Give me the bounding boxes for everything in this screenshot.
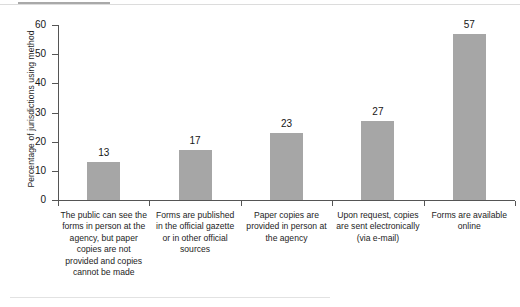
y-axis-tick [52, 54, 58, 55]
x-axis-tick [332, 201, 333, 206]
bar-value-label: 13 [84, 147, 124, 158]
y-axis-tick [52, 142, 58, 143]
y-axis-tick [52, 25, 58, 26]
bar-value-label: 23 [267, 118, 307, 129]
x-axis-category-label: Forms are available online [426, 210, 513, 233]
y-axis-line [58, 25, 59, 201]
bar[interactable] [453, 34, 486, 200]
y-axis-tick-label: 20 [6, 136, 46, 147]
y-axis-tick [52, 171, 58, 172]
bar-chart: Percentage of jurisdictions using method… [0, 0, 520, 307]
bar[interactable] [87, 162, 120, 200]
x-axis-tick [58, 201, 59, 206]
bar-value-label: 57 [449, 19, 489, 30]
x-axis-category-label: Upon request, copies are sent electronic… [334, 210, 421, 244]
x-axis-tick [149, 201, 150, 206]
y-axis-tick [52, 83, 58, 84]
bar[interactable] [270, 133, 303, 200]
y-axis-tick-label: 50 [6, 48, 46, 59]
y-axis-tick-label: 40 [6, 77, 46, 88]
x-axis-tick [424, 201, 425, 206]
x-axis-tick [515, 201, 516, 206]
bar-value-label: 17 [175, 135, 215, 146]
y-axis-tick-label: 60 [6, 19, 46, 30]
bar-value-label: 27 [358, 106, 398, 117]
y-axis-tick-label: 10 [6, 165, 46, 176]
x-axis-category-label: The public can see the forms in person a… [60, 210, 147, 278]
bar[interactable] [361, 121, 394, 200]
x-axis-category-label: Paper copies are provided in person at t… [243, 210, 330, 244]
bar[interactable] [179, 150, 212, 200]
x-axis-line [58, 200, 515, 201]
x-axis-category-label: Forms are published in the official gaze… [151, 210, 238, 256]
y-axis-tick [52, 113, 58, 114]
y-axis-tick-label: 30 [6, 107, 46, 118]
x-axis-tick [241, 201, 242, 206]
y-axis-tick-label: 0 [6, 194, 46, 205]
